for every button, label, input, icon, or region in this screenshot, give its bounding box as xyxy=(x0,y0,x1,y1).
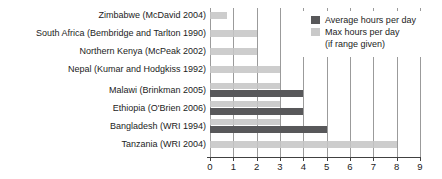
bar-max xyxy=(210,48,257,55)
x-tick-label: 5 xyxy=(320,161,334,172)
bar-max xyxy=(210,83,280,89)
legend-sublabel-max: (if range given) xyxy=(325,38,385,50)
bar-max xyxy=(210,66,280,73)
x-axis-line xyxy=(207,157,421,158)
bar-max xyxy=(210,101,280,107)
x-tick-label: 4 xyxy=(296,161,310,172)
legend-label-max: Max hours per day xyxy=(325,26,400,38)
bar-chart: Zimbabwe (McDavid 2004)South Africa (Bem… xyxy=(0,0,442,179)
category-label: South Africa (Bembridge and Tarlton 1990… xyxy=(0,28,206,38)
legend-item-max-note: (if range given) xyxy=(303,38,442,50)
category-label: Nepal (Kumar and Hodgkiss 1992) xyxy=(0,64,206,74)
bar-average xyxy=(210,108,303,115)
category-label: Malawi (Brinkman 2005) xyxy=(0,85,206,95)
legend-item-max: Max hours per day xyxy=(303,26,442,38)
legend-item-average: Average hours per day xyxy=(303,14,442,26)
max-swatch-icon xyxy=(311,28,320,36)
average-swatch-icon xyxy=(311,16,320,24)
category-label: Zimbabwe (McDavid 2004) xyxy=(0,10,206,20)
bar-max xyxy=(210,119,280,125)
category-label: Bangladesh (WRI 1994) xyxy=(0,121,206,131)
bar-max xyxy=(210,141,397,148)
legend-label-average: Average hours per day xyxy=(325,14,416,26)
bar-average xyxy=(210,90,303,97)
x-tick-label: 8 xyxy=(390,161,404,172)
gridline xyxy=(280,8,281,157)
category-label: Tanzania (WRI 2004) xyxy=(0,139,206,149)
category-label: Ethiopia (O'Brien 2006) xyxy=(0,103,206,113)
x-tick-label: 2 xyxy=(250,161,264,172)
x-tick-label: 0 xyxy=(203,161,217,172)
x-tick-label: 6 xyxy=(343,161,357,172)
x-tick-label: 7 xyxy=(366,161,380,172)
bar-max xyxy=(210,30,257,37)
legend: Average hours per day Max hours per day … xyxy=(303,11,442,57)
bar-max xyxy=(210,12,227,19)
category-label: Northern Kenya (McPeak 2002) xyxy=(0,46,206,56)
x-tick-label: 1 xyxy=(226,161,240,172)
x-tick-label: 9 xyxy=(413,161,427,172)
x-tick-label: 3 xyxy=(273,161,287,172)
bar-average xyxy=(210,126,327,133)
